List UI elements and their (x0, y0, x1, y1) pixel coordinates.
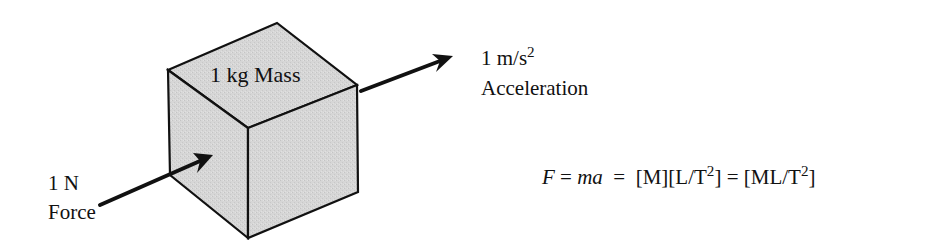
force-label: Force (48, 202, 96, 223)
equation-dim-2-exponent: 2 (801, 163, 809, 179)
force-diagram-canvas (0, 0, 928, 251)
acceleration-arrow-icon (361, 54, 453, 91)
equation-dim-1: [M][L/T (636, 165, 707, 189)
equation-dim-2: [ML/T (744, 165, 801, 189)
acceleration-value-base: 1 m/s (481, 46, 527, 70)
mass-cube (168, 23, 358, 238)
acceleration-value: 1 m/s2 (481, 48, 535, 69)
dimensional-equation: F = ma = [M][L/T2] = [ML/T2] (542, 167, 815, 188)
acceleration-value-exponent: 2 (527, 44, 535, 60)
force-value: 1 N (48, 173, 79, 194)
equation-equals-1: = (555, 165, 577, 189)
equation-equals-3: = (721, 165, 743, 189)
equation-dim-1-exponent: 2 (707, 163, 715, 179)
equation-rhs-var: ma (577, 165, 603, 189)
mass-label: 1 kg Mass (210, 64, 300, 86)
equation-dim-2-close: ] (808, 165, 815, 189)
equation-equals-2: = (603, 165, 636, 189)
acceleration-label: Acceleration (481, 78, 588, 99)
equation-lhs-var: F (542, 165, 555, 189)
